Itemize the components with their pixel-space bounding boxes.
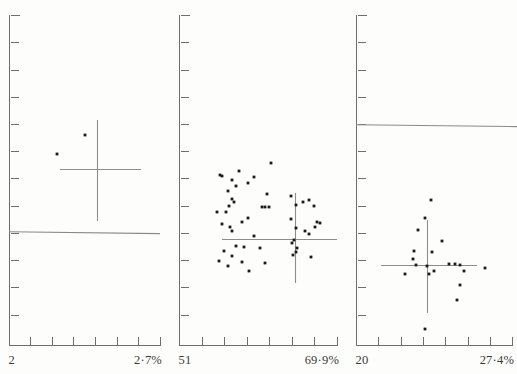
data-point: [227, 190, 230, 193]
data-point: [293, 239, 296, 242]
data-point: [431, 251, 434, 254]
data-point: [459, 284, 462, 287]
data-point: [428, 273, 431, 276]
data-point: [424, 328, 427, 331]
x-axis-min-label-2: 20: [356, 353, 369, 367]
data-point: [316, 221, 319, 224]
data-point: [266, 193, 269, 196]
data-point: [270, 162, 273, 165]
data-point: [310, 256, 313, 259]
data-point: [292, 254, 295, 257]
data-point: [295, 227, 298, 230]
data-point: [484, 267, 487, 270]
data-point: [231, 198, 234, 201]
data-point: [314, 226, 317, 229]
scatter-figure: 22·7%5169·9%2027·4%: [0, 0, 517, 374]
data-point: [426, 265, 429, 268]
data-point: [308, 233, 311, 236]
data-point: [241, 261, 244, 264]
data-point: [302, 201, 305, 204]
data-point: [459, 264, 462, 267]
data-point: [218, 260, 221, 263]
data-point: [221, 175, 224, 178]
panel-group: [9, 15, 517, 346]
data-point: [304, 230, 307, 233]
data-point: [433, 270, 436, 273]
data-point: [221, 223, 224, 226]
data-point: [291, 242, 294, 245]
data-point: [295, 251, 298, 254]
data-point: [253, 176, 256, 179]
data-point: [424, 217, 427, 220]
data-point: [415, 264, 418, 267]
data-point: [235, 245, 238, 248]
data-point: [454, 263, 457, 266]
data-point: [412, 258, 415, 261]
data-point: [233, 201, 236, 204]
data-point: [290, 195, 293, 198]
data-point: [225, 211, 228, 214]
data-point: [268, 206, 271, 209]
x-axis-max-label-2: 27·4%: [480, 353, 514, 367]
data-point: [247, 217, 250, 220]
data-point: [308, 199, 311, 202]
data-point: [84, 134, 87, 137]
x-axis-min-label-1: 51: [179, 353, 192, 367]
data-point: [231, 255, 234, 258]
data-point: [231, 179, 234, 182]
reference-line-2: [356, 125, 517, 127]
data-point: [231, 230, 234, 233]
data-point: [228, 205, 231, 208]
figure-canvas: 22·7%5169·9%2027·4%: [0, 0, 517, 374]
data-point: [296, 247, 299, 250]
data-point: [56, 153, 59, 156]
data-point: [413, 250, 416, 253]
data-point: [259, 247, 262, 250]
data-point: [248, 270, 251, 273]
data-point: [223, 250, 226, 253]
data-point: [243, 246, 246, 249]
data-point: [216, 211, 219, 214]
data-point: [404, 273, 407, 276]
data-point: [456, 299, 459, 302]
x-axis-max-label-1: 69·9%: [305, 353, 339, 367]
data-point: [417, 229, 420, 232]
x-axis-max-label-0: 2·7%: [134, 353, 162, 367]
reference-line-0: [9, 232, 160, 234]
data-point: [253, 235, 256, 238]
data-point: [319, 222, 322, 225]
data-point: [235, 185, 238, 188]
data-point: [241, 221, 244, 224]
data-point: [264, 206, 267, 209]
data-point: [441, 240, 444, 243]
data-point: [430, 199, 433, 202]
data-point: [290, 218, 293, 221]
x-axis-min-label-0: 2: [9, 353, 15, 367]
data-point: [463, 270, 466, 273]
data-point: [264, 262, 267, 265]
data-point: [227, 265, 230, 268]
data-point: [238, 170, 241, 173]
panel-0: [9, 15, 161, 346]
axis-label-group: 22·7%5169·9%2027·4%: [9, 353, 515, 367]
data-point: [261, 206, 264, 209]
data-point: [448, 263, 451, 266]
data-point: [229, 226, 232, 229]
data-point: [295, 204, 298, 207]
data-point: [247, 182, 250, 185]
panel-2: [356, 15, 517, 346]
panel-1: [180, 15, 338, 346]
data-point: [313, 205, 316, 208]
